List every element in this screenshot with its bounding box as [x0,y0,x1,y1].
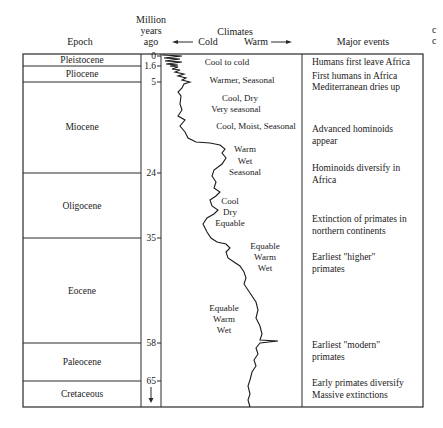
climate-warmer-seasonal: Warmer, Seasonal [197,75,287,86]
event-mediterranean: Mediterranean dries up [312,82,400,93]
climate-warm-2: Warm [243,252,287,263]
climate-very-seasonal: Very seasonal [196,104,276,115]
epoch-pliocene: Pliocene [23,69,141,80]
climate-wet-3: Wet [202,325,246,336]
edge-glyph-1: c [432,24,442,35]
event-massive-extinctions: Massive extinctions [312,390,388,401]
event-extinction-l2: northern continents [312,226,386,237]
tick-24: 24 [136,168,156,178]
climate-warm: Warm [225,144,265,155]
climate-dry: Dry [210,207,250,218]
mya-header-line1: Million [126,14,176,25]
climate-cool: Cool [210,196,250,207]
climate-cool-moist-seasonal: Cool, Moist, Seasonal [210,121,302,132]
event-hominoids-diversify: Hominoids diversify in [312,163,400,174]
event-modern-primates: Earliest "modern" [312,340,380,351]
event-advanced-hominoids: Advanced hominoids [312,124,393,135]
epoch-oligocene: Oligocene [23,201,141,212]
tick-5: 5 [136,77,156,87]
event-higher-primates: Earliest "higher" [312,252,375,263]
climate-equable-2: Equable [243,241,287,252]
tick-35: 35 [136,233,156,243]
epoch-cretaceous: Cretaceous [23,389,141,400]
event-modern-primates-l2: primates [312,352,345,363]
climate-wet: Wet [225,156,265,167]
epoch-header: Epoch [40,36,120,47]
cold-label: Cold [193,36,223,47]
mya-header-line3: ago [126,36,176,47]
epoch-paleocene: Paleocene [23,357,141,368]
tick-1-6: 1.6 [136,61,156,71]
warm-label: Warm [240,36,272,47]
event-advanced-hominoids-l2: appear [312,136,337,147]
climate-warm-3: Warm [202,314,246,325]
mya-header-line2: years [126,25,176,36]
tick-0: 0 [136,51,156,61]
climate-wet-2: Wet [243,263,287,274]
epoch-eocene: Eocene [23,286,141,297]
tick-58: 58 [136,338,156,348]
edge-glyph-2: c [432,35,442,46]
climate-seasonal: Seasonal [222,167,268,178]
event-extinction: Extinction of primates in [312,214,407,225]
epoch-miocene: Miocene [23,122,141,133]
event-humans-leave-africa: Humans first leave Africa [312,57,410,68]
climate-cool-to-cold: Cool to cold [192,57,262,68]
event-early-primates: Early primates diversify [312,378,404,389]
tick-65: 65 [136,376,156,386]
climate-cool-dry: Cool, Dry [200,93,280,104]
climate-equable: Equable [208,218,252,229]
event-hominoids-diversify-l2: Africa [312,175,336,186]
epoch-pleistocene: Pleistocene [23,55,141,66]
major-events-header: Major events [308,36,418,47]
event-higher-primates-l2: primates [312,264,345,275]
event-first-humans: First humans in Africa [312,71,397,82]
climate-equable-3: Equable [202,303,246,314]
